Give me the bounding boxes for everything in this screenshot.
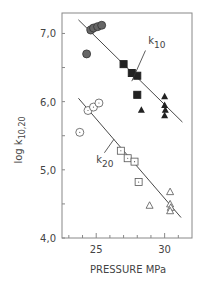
chart: k10k20 4,05,06,07,0 2530 PRESSURE MPa lo… xyxy=(0,0,202,288)
marker-filled-triangle xyxy=(138,106,145,113)
annotation-leader xyxy=(104,139,114,153)
y-tick-label: 6,0 xyxy=(40,97,56,108)
y-tick-label: 7,0 xyxy=(40,28,56,39)
x-tick-label: 30 xyxy=(158,244,171,255)
marker-open-triangle xyxy=(167,188,174,195)
marker-filled-square xyxy=(134,72,141,79)
marker-filled-square xyxy=(134,91,141,98)
marker-dot xyxy=(134,161,135,162)
y-tick-label: 4,0 xyxy=(40,233,56,244)
marker-dot xyxy=(120,150,121,151)
marker-filled-triangle xyxy=(161,93,168,100)
marker-dot xyxy=(87,110,88,111)
data-points xyxy=(76,21,175,213)
marker-dot xyxy=(93,106,94,107)
fit-lines xyxy=(78,20,182,218)
y-tick-labels: 4,05,06,07,0 xyxy=(40,28,56,244)
marker-open-triangle xyxy=(146,202,153,209)
marker-filled-square xyxy=(120,61,127,68)
marker-filled-circle xyxy=(83,50,91,58)
y-axis-title: log k10,20 xyxy=(13,116,27,163)
annotations: k10k20 xyxy=(96,35,166,169)
y-tick-label: 5,0 xyxy=(40,165,56,176)
x-tick-labels: 2530 xyxy=(90,244,171,255)
annotation-label: k20 xyxy=(96,154,114,169)
marker-dot xyxy=(79,132,80,133)
marker-filled-circle xyxy=(98,21,106,29)
marker-dot xyxy=(138,181,139,182)
x-tick-label: 25 xyxy=(90,244,103,255)
annotation-label: k10 xyxy=(148,35,166,50)
x-axis-title: PRESSURE MPa xyxy=(90,264,166,275)
marker-dot xyxy=(98,102,99,103)
marker-dot xyxy=(127,158,128,159)
